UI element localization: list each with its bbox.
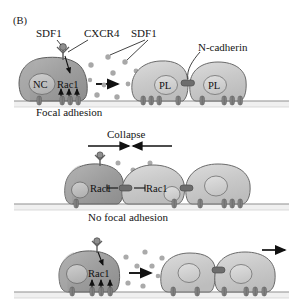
cell-label-rac1-middle-right: Rac1 bbox=[146, 183, 168, 194]
cell-label-pl-left: PL bbox=[159, 80, 171, 91]
figure-panel-b bbox=[0, 0, 301, 303]
cell-label-pl-right: PL bbox=[208, 80, 220, 91]
cell-label-nc: NC bbox=[33, 79, 48, 90]
label-sdf1-right: SDF1 bbox=[131, 28, 157, 39]
label-n-cadherin: N-cadherin bbox=[198, 42, 247, 53]
cell-label-rac1-bottom: Rac1 bbox=[88, 268, 110, 279]
label-focal-adhesion: Focal adhesion bbox=[36, 107, 102, 118]
label-collapse: Collapse bbox=[107, 129, 146, 140]
pl-nucleus-left-bottom bbox=[178, 264, 200, 283]
pl-nucleus-right-middle bbox=[205, 176, 228, 196]
n-cadherin-junction-top bbox=[181, 80, 195, 86]
sdf1-ligand-bound-bottom bbox=[94, 238, 100, 244]
nc-nucleus-middle bbox=[72, 182, 89, 198]
nc-nucleus-bottom bbox=[67, 265, 88, 284]
pl-cell-right-middle bbox=[186, 164, 250, 204]
sdf1-ligand-bound-middle bbox=[97, 152, 103, 158]
n-cadherin-junction-bottom bbox=[212, 267, 225, 273]
label-no-focal-adhesion: No focal adhesion bbox=[88, 212, 168, 223]
panel-letter: (B) bbox=[13, 16, 27, 27]
pl-nucleus-right-bottom bbox=[230, 265, 252, 284]
label-cxcr4: CXCR4 bbox=[84, 28, 119, 39]
cell-label-rac1-top: Rac1 bbox=[57, 79, 79, 90]
label-sdf1-left: SDF1 bbox=[36, 28, 62, 39]
cell-label-rac1-middle-left: Rac1 bbox=[90, 183, 112, 194]
substrate-middle bbox=[14, 204, 289, 210]
